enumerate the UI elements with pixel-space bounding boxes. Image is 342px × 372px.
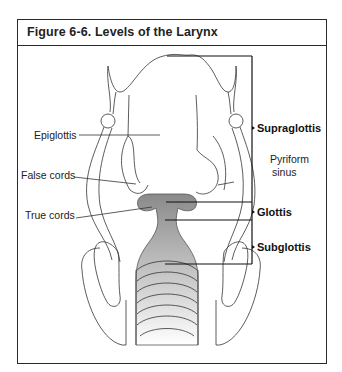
label-epiglottis: Epiglottis xyxy=(34,129,77,141)
label-pyriform-line1: Pyriform xyxy=(270,153,309,165)
label-true-cords: True cords xyxy=(25,209,75,221)
label-glottis: Glottis xyxy=(257,206,292,218)
larynx-diagram: Epiglottis False cords True cords Suprag… xyxy=(0,0,342,372)
glottis-shape xyxy=(136,194,198,345)
label-subglottis: Subglottis xyxy=(257,241,311,253)
label-supraglottis: Supraglottis xyxy=(257,122,321,134)
label-false-cords: False cords xyxy=(21,169,75,181)
label-pyriform-line2: sinus xyxy=(272,166,297,178)
